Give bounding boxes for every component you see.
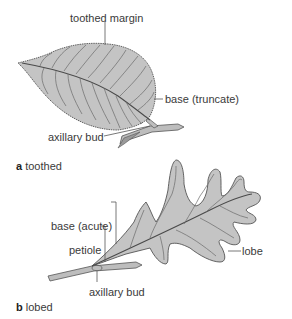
label-axillary-bud-b: axillary bud — [89, 286, 145, 298]
caption-a-text: toothed — [25, 160, 62, 172]
label-base-acute: base (acute) — [51, 220, 112, 232]
label-axillary-bud-a: axillary bud — [48, 131, 104, 143]
caption-b-text: lobed — [26, 301, 53, 313]
caption-b: b lobed — [16, 301, 53, 313]
label-toothed-margin: toothed margin — [70, 12, 143, 24]
caption-a-letter: a — [16, 160, 22, 172]
caption-a: a toothed — [16, 160, 62, 172]
label-petiole: petiole — [69, 244, 101, 256]
label-base-truncate: base (truncate) — [165, 93, 239, 105]
caption-b-letter: b — [16, 301, 23, 313]
label-lobe: lobe — [242, 245, 263, 257]
toothed-leaf — [18, 22, 184, 148]
